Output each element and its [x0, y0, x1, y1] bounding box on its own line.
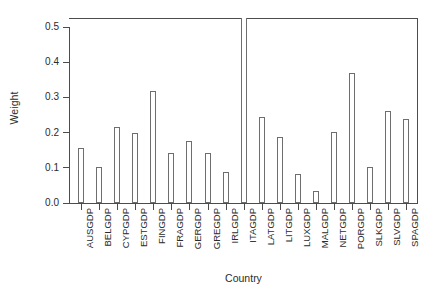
x-axis-tick-label: SPAGDP — [410, 208, 420, 268]
bar-malgdp — [313, 191, 319, 203]
bar-irlgdp — [223, 172, 229, 203]
bar-ausgdp — [78, 148, 84, 203]
y-axis-tick-label: 0.3 — [45, 92, 63, 102]
x-axis-tick-mark — [370, 204, 371, 210]
x-axis-tick-mark — [298, 204, 299, 210]
x-axis-title: Country — [69, 272, 418, 284]
x-axis-tick-mark — [99, 204, 100, 210]
x-axis-tick-label: LATGDP — [266, 208, 276, 268]
x-axis-tick-label: GREGDP — [212, 208, 222, 268]
bar-litgdp — [277, 137, 283, 203]
x-axis-tick-mark — [117, 204, 118, 210]
x-axis-tick-mark — [262, 204, 263, 210]
x-axis-tick-label: IRLGDP — [230, 208, 240, 268]
bar-gergdp — [186, 141, 192, 203]
x-axis-tick-label: CYPGDP — [121, 208, 131, 268]
x-axis-tick-mark — [316, 204, 317, 210]
bar-estgdp — [132, 133, 138, 203]
bar-luxgdp — [295, 174, 301, 203]
bar-netgdp — [331, 132, 337, 203]
bar-chart: Weight 0.00.10.20.30.40.5 AUSGDPBELGDPCY… — [0, 0, 428, 293]
x-axis-tick-mark — [280, 204, 281, 210]
x-axis-tick-label: FINGDP — [157, 208, 167, 268]
x-axis-tick-label: ESTGDP — [139, 208, 149, 268]
bar-fingdp — [150, 91, 156, 203]
x-axis-tick-mark — [153, 204, 154, 210]
x-axis-tick-label: LITGDP — [284, 208, 294, 268]
x-axis-tick-mark — [388, 204, 389, 210]
bar-slvgdp — [385, 111, 391, 203]
x-axis-tick-mark — [189, 204, 190, 210]
x-axis-tick-mark — [208, 204, 209, 210]
bar-spagdp — [403, 119, 409, 203]
x-axis-tick-mark — [226, 204, 227, 210]
x-axis-tick-label: AUSGDP — [85, 208, 95, 268]
x-axis-tick-label: ITAGDP — [248, 208, 258, 268]
x-axis-tick-mark — [406, 204, 407, 210]
bar-belgdp — [96, 167, 102, 203]
y-axis-tick-label: 0.5 — [45, 22, 63, 32]
x-axis-tick-label: SLVGDP — [392, 208, 402, 268]
y-axis-tick-label: 0.0 — [45, 198, 63, 208]
x-axis-tick-mark — [334, 204, 335, 210]
x-axis-tick-label: GERGDP — [193, 208, 203, 268]
y-axis-tick-label: 0.1 — [45, 163, 63, 173]
y-axis-tick-label: 0.2 — [45, 128, 63, 138]
x-axis-tick-mark — [135, 204, 136, 210]
bar-fragdp — [168, 153, 174, 203]
y-axis: 0.00.10.20.30.40.5 — [0, 0, 70, 293]
y-axis-tick-label: 0.4 — [45, 57, 63, 67]
x-axis-tick-label: MALGDP — [320, 208, 330, 268]
x-axis-tick-mark — [81, 204, 82, 210]
x-axis-tick-label: LUXGDP — [302, 208, 312, 268]
bar-itagdp — [241, 18, 247, 203]
x-axis-tick-mark — [352, 204, 353, 210]
x-axis-tick-label: BELGDP — [103, 208, 113, 268]
x-axis-tick-mark — [244, 204, 245, 210]
x-axis-labels: AUSGDPBELGDPCYPGDPESTGDPFINGDPFRAGDPGERG… — [69, 212, 418, 272]
x-axis-tick-label: PORGDP — [356, 208, 366, 268]
x-axis-tick-label: SLKGDP — [374, 208, 384, 268]
x-axis-tick-label: FRAGDP — [175, 208, 185, 268]
bars-container — [69, 18, 418, 203]
bar-latgdp — [259, 117, 265, 203]
x-axis-tick-mark — [171, 204, 172, 210]
bar-porgdp — [349, 73, 355, 203]
x-axis-tick-label: NETGDP — [338, 208, 348, 268]
bar-slkgdp — [367, 167, 373, 203]
bar-cypgdp — [114, 127, 120, 203]
bar-gregdp — [205, 153, 211, 203]
